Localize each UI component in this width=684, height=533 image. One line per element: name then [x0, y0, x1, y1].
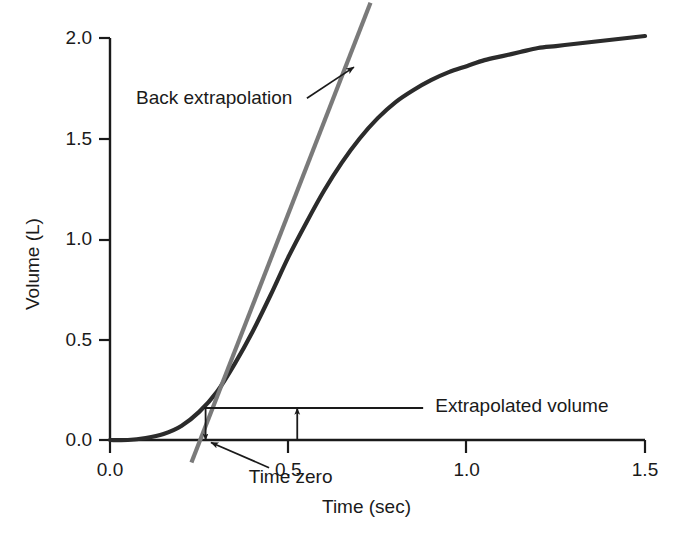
- y-axis-tick-label: 2.0: [66, 27, 92, 49]
- annotation-label-back-extrapolation: Back extrapolation: [136, 87, 292, 109]
- y-axis-ticks: [99, 38, 110, 440]
- x-axis-tick-label: 1.0: [453, 459, 479, 481]
- x-axis-tick-label: 0.0: [97, 459, 123, 481]
- y-axis-tick-label: 0.5: [66, 329, 92, 351]
- x-axis-tick-label: 1.5: [632, 459, 658, 481]
- x-axis-ticks: [110, 440, 645, 453]
- time-zero-arrow: [211, 442, 269, 467]
- plot-canvas: [0, 0, 684, 533]
- annotation-leader-lines: [204, 67, 423, 468]
- y-axis-title: Volume (L): [22, 218, 44, 310]
- y-axis-tick-label: 1.5: [66, 128, 92, 150]
- back-extrapolation-tangent-line: [191, 3, 370, 463]
- y-axis-tick-label: 0.0: [66, 429, 92, 451]
- annotation-label-extrapolated-volume: Extrapolated volume: [435, 395, 608, 417]
- y-axis-tick-label: 1.0: [66, 228, 92, 250]
- back-extrapolation-arrow: [307, 67, 354, 98]
- annotation-label-time-zero: Time zero: [249, 466, 333, 488]
- x-axis-title: Time (sec): [322, 496, 411, 518]
- chart-figure: 0.00.51.01.52.0 0.00.51.01.5 Volume (L) …: [0, 0, 684, 533]
